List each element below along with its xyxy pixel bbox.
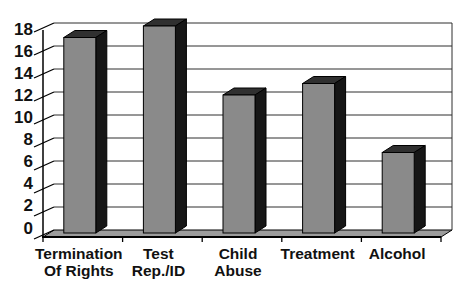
bar-front-face	[382, 153, 414, 234]
bar-side-face	[175, 19, 186, 233]
category-label: Abuse	[214, 262, 262, 279]
y-tick-label: 16	[14, 42, 33, 61]
category-label: Alcohol	[369, 245, 426, 262]
category-label: Of Rights	[44, 262, 114, 279]
bar-side-face	[335, 77, 346, 234]
category-label: Rep./ID	[132, 262, 185, 279]
y-tick	[34, 184, 54, 193]
bar-front-face	[64, 38, 96, 234]
category-label: Child	[219, 245, 258, 262]
y-tick	[34, 138, 54, 147]
bar-front-face	[143, 26, 175, 233]
y-tick	[34, 69, 54, 78]
y-tick	[34, 207, 54, 216]
y-tick	[34, 161, 54, 170]
chart-canvas: 024681012141618TerminationOf RightsTestR…	[0, 0, 461, 295]
bar-front-face	[223, 95, 255, 233]
y-tick-label: 0	[24, 219, 33, 238]
y-tick-label: 14	[14, 64, 33, 83]
y-tick-label: 2	[24, 196, 33, 215]
category-label: Test	[143, 245, 174, 262]
y-tick	[34, 115, 54, 124]
y-tick-label: 12	[14, 86, 33, 105]
y-tick	[34, 23, 54, 32]
y-tick-label: 10	[14, 108, 33, 127]
bar-side-face	[255, 88, 266, 233]
bar-front-face	[303, 84, 335, 234]
y-tick-label: 4	[24, 174, 34, 193]
y-tick-label: 6	[24, 152, 33, 171]
y-tick	[34, 46, 54, 55]
category-label: Treatment	[281, 245, 355, 262]
y-tick-label: 8	[24, 130, 33, 149]
bar-chart-figure: 024681012141618TerminationOf RightsTestR…	[0, 0, 461, 295]
category-label: Termination	[35, 245, 123, 262]
y-tick	[34, 92, 54, 101]
bar-side-face	[414, 146, 425, 234]
bar-side-face	[96, 31, 107, 234]
y-tick-label: 18	[14, 20, 33, 39]
